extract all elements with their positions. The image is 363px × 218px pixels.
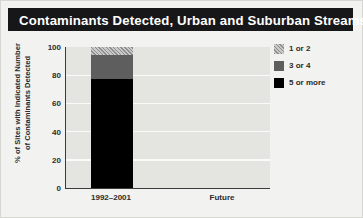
legend-label-5-or-more: 5 or more <box>289 78 325 87</box>
y-tick-label-80: 80 <box>35 71 61 80</box>
chart-title: Contaminants Detected, Urban and Suburba… <box>19 12 363 27</box>
y-tick-label-0: 0 <box>35 184 61 193</box>
y-axis-tick-labels: 100 80 60 40 20 0 <box>35 33 61 218</box>
y-tick-label-100: 100 <box>35 43 61 52</box>
legend-label-1-or-2: 1 or 2 <box>289 44 310 53</box>
x-tick-label-1992-2001: 1992–2001 <box>91 193 131 202</box>
x-tick-label-future: Future <box>210 193 235 202</box>
plot-area <box>65 47 270 189</box>
chart-legend: 1 or 2 3 or 4 5 or more <box>274 41 354 92</box>
y-axis-title-line-1: % of Sites with Indicated Number <box>13 33 23 173</box>
bar-1992-2001[interactable] <box>91 47 133 188</box>
y-tick-label-60: 60 <box>35 99 61 108</box>
chart-figure: Contaminants Detected, Urban and Suburba… <box>0 0 363 218</box>
bar-segment-5-or-more[interactable] <box>91 79 133 188</box>
legend-swatch-3-or-4 <box>274 61 284 71</box>
bar-segment-3-or-4[interactable] <box>91 55 133 79</box>
y-axis-title-line-2: of Contaminants Detected <box>23 33 33 173</box>
legend-swatch-5-or-more <box>274 78 284 88</box>
legend-item-3-or-4[interactable]: 3 or 4 <box>274 58 354 73</box>
chart-title-bar: Contaminants Detected, Urban and Suburba… <box>8 8 353 31</box>
bar-segment-1-or-2[interactable] <box>91 47 133 55</box>
y-tick-label-40: 40 <box>35 127 61 136</box>
chart-body: % of Sites with Indicated Number of Cont… <box>1 33 363 218</box>
legend-item-1-or-2[interactable]: 1 or 2 <box>274 41 354 56</box>
y-tick-label-20: 20 <box>35 155 61 164</box>
legend-item-5-or-more[interactable]: 5 or more <box>274 75 354 90</box>
legend-label-3-or-4: 3 or 4 <box>289 61 310 70</box>
legend-swatch-1-or-2 <box>274 44 284 54</box>
